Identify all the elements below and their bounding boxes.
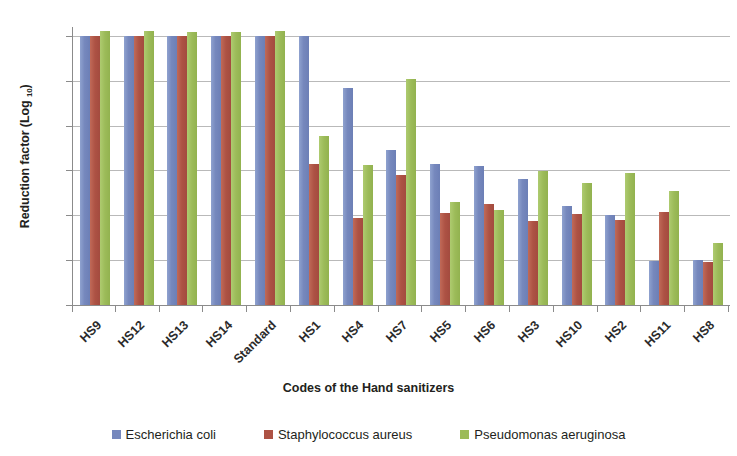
bar bbox=[231, 32, 241, 305]
x-axis-tick-mark bbox=[335, 305, 379, 312]
bar-group bbox=[555, 27, 599, 305]
legend-item[interactable]: Escherichia coli bbox=[112, 427, 216, 442]
x-axis-tick-mark bbox=[422, 305, 466, 312]
x-axis-tick-mark bbox=[685, 305, 729, 312]
x-axis-tick-mark bbox=[291, 305, 335, 312]
bar-group bbox=[467, 27, 511, 305]
x-axis-tick-label: HS7 bbox=[383, 318, 410, 345]
y-axis-tick-mark bbox=[66, 170, 73, 171]
bar bbox=[299, 36, 309, 305]
bar bbox=[177, 36, 187, 305]
bar bbox=[221, 36, 231, 305]
x-axis-title: Codes of the Hand sanitizers bbox=[0, 381, 737, 395]
bar bbox=[528, 221, 538, 305]
bar bbox=[255, 36, 265, 305]
bar-group bbox=[599, 27, 643, 305]
bar bbox=[582, 183, 592, 305]
x-axis-tick-mark bbox=[510, 305, 554, 312]
x-axis-tick-mark bbox=[72, 305, 116, 312]
bar bbox=[187, 32, 197, 305]
bar bbox=[572, 214, 582, 305]
bar-group bbox=[423, 27, 467, 305]
bar bbox=[562, 206, 572, 305]
bar bbox=[518, 179, 528, 305]
x-axis-tick-label: HS2 bbox=[602, 318, 629, 345]
x-axis-label-cell: HS4 bbox=[335, 314, 379, 376]
x-axis-label-cell: HS1 bbox=[291, 314, 335, 376]
bar bbox=[649, 261, 659, 305]
x-axis-label-cell: HS6 bbox=[466, 314, 510, 376]
bar bbox=[275, 31, 285, 305]
bar bbox=[363, 165, 373, 305]
x-axis-tick-label: HS6 bbox=[471, 318, 498, 345]
bar bbox=[484, 204, 494, 305]
bar bbox=[343, 88, 353, 305]
bar bbox=[167, 36, 177, 305]
bar bbox=[440, 213, 450, 305]
x-axis-tick-mark bbox=[116, 305, 160, 312]
bar bbox=[406, 79, 416, 305]
x-axis-labels: HS9HS12HS13HS14StandardHS1HS4HS7HS5HS6HS… bbox=[72, 314, 729, 376]
x-axis-label-cell: HS3 bbox=[510, 314, 554, 376]
x-axis-label-cell: HS5 bbox=[422, 314, 466, 376]
legend-item[interactable]: Pseudomonas aeruginosa bbox=[460, 427, 625, 442]
bar bbox=[474, 166, 484, 305]
legend-item[interactable]: Staphylococcus aureus bbox=[264, 427, 412, 442]
x-axis-label-cell: HS2 bbox=[598, 314, 642, 376]
x-axis-tick-label: HS13 bbox=[159, 318, 191, 350]
x-axis-tick-label: HS12 bbox=[116, 318, 148, 350]
bar bbox=[605, 215, 615, 305]
bar bbox=[319, 136, 329, 305]
x-axis-tick-mark bbox=[247, 305, 291, 312]
y-axis-title: Reduction factor (Log 10) bbox=[18, 56, 35, 256]
x-axis-tick-mark bbox=[203, 305, 247, 312]
bar bbox=[713, 243, 723, 305]
x-axis-tick-label: HS10 bbox=[554, 318, 586, 350]
bar-groups bbox=[73, 27, 730, 305]
x-axis-tick-label: HS4 bbox=[339, 318, 366, 345]
y-axis-tick-mark bbox=[66, 81, 73, 82]
y-axis-tick-mark bbox=[66, 126, 73, 127]
bar bbox=[265, 36, 275, 305]
x-axis-tick-label: HS9 bbox=[77, 318, 104, 345]
x-axis-label-cell: HS11 bbox=[641, 314, 685, 376]
legend-label: Escherichia coli bbox=[126, 427, 216, 442]
bar bbox=[211, 36, 221, 305]
x-axis-label-cell: HS12 bbox=[116, 314, 160, 376]
bar bbox=[494, 210, 504, 306]
x-axis-label-cell: HS9 bbox=[72, 314, 116, 376]
bar-group bbox=[248, 27, 292, 305]
x-axis-label-cell: HS7 bbox=[379, 314, 423, 376]
bar bbox=[100, 31, 110, 305]
bar-group bbox=[380, 27, 424, 305]
bar-group bbox=[336, 27, 380, 305]
bar bbox=[625, 173, 635, 305]
bar bbox=[90, 36, 100, 305]
x-axis-tick-mark bbox=[598, 305, 642, 312]
bar bbox=[134, 36, 144, 305]
y-axis-title-main: Reduction factor (Log bbox=[18, 97, 32, 228]
x-axis-tick-mark bbox=[554, 305, 598, 312]
x-axis-tick-label: HS11 bbox=[642, 318, 674, 350]
bar-group bbox=[161, 27, 205, 305]
y-axis-tick-mark bbox=[66, 36, 73, 37]
x-axis-tick-mark bbox=[641, 305, 685, 312]
plot-area bbox=[72, 27, 730, 306]
x-axis-label-cell: Standard bbox=[247, 314, 291, 376]
x-axis-tick-label: HS5 bbox=[427, 318, 454, 345]
bar bbox=[615, 220, 625, 305]
bar-group bbox=[204, 27, 248, 305]
bar bbox=[80, 36, 90, 305]
bar bbox=[124, 36, 134, 305]
chart-legend: Escherichia coliStaphylococcus aureusPse… bbox=[0, 427, 737, 442]
bar-group bbox=[511, 27, 555, 305]
bar bbox=[450, 202, 460, 305]
y-axis-title-tail: ) bbox=[18, 84, 32, 88]
x-axis-label-cell: HS10 bbox=[554, 314, 598, 376]
bar bbox=[703, 262, 713, 305]
legend-swatch-icon bbox=[112, 430, 121, 439]
legend-label: Pseudomonas aeruginosa bbox=[474, 427, 625, 442]
bar-chart: Reduction factor (Log 10) 0.001.002.003.… bbox=[0, 0, 737, 456]
bar bbox=[144, 31, 154, 305]
x-axis-tick-mark bbox=[466, 305, 510, 312]
